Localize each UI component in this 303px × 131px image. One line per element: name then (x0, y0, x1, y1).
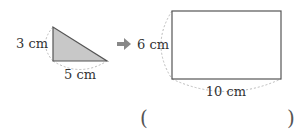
close-paren: ) (287, 106, 295, 130)
answer-blank: ( ) (140, 106, 295, 130)
rectangle-width-label: 10 cm (206, 84, 246, 99)
open-paren: ( (140, 106, 148, 130)
rectangle-figure: 6 cm 10 cm (137, 11, 281, 99)
rectangle (172, 11, 281, 79)
diagram-canvas: 3 cm 5 cm 6 cm 10 cm ( ) (0, 0, 303, 131)
triangle-height-label: 3 cm (16, 36, 48, 51)
right-triangle (53, 27, 107, 61)
triangle-base-label: 5 cm (64, 67, 96, 82)
triangle-figure: 3 cm 5 cm (16, 27, 107, 82)
rectangle-height-label: 6 cm (137, 37, 169, 52)
right-arrow-icon (117, 38, 131, 50)
